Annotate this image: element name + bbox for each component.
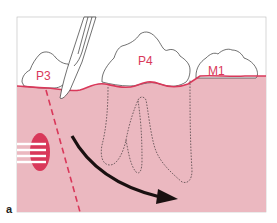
label-p4: P4: [138, 54, 153, 68]
panel-label: a: [6, 203, 12, 215]
suture-site-ellipse: [30, 133, 50, 171]
dental-extraction-diagram: P3 P4 M1 a: [0, 0, 277, 223]
label-m1: M1: [208, 64, 225, 78]
label-p3: P3: [36, 69, 51, 83]
